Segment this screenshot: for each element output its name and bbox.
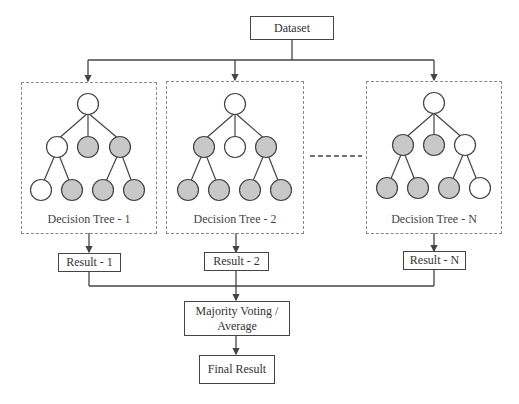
result-2-label: Result - 2 xyxy=(213,254,260,269)
tree-n-label: Decision Tree - N xyxy=(367,212,501,227)
result-2-box: Result - 2 xyxy=(204,252,269,271)
tree-2-panel: Decision Tree - 2 xyxy=(166,81,304,234)
result-n-label: Result - N xyxy=(410,253,459,268)
aggregator-box: Majority Voting / Average xyxy=(184,301,290,336)
final-result-label: Final Result xyxy=(208,362,266,377)
result-n-box: Result - N xyxy=(403,251,466,270)
dataset-label: Dataset xyxy=(274,21,310,36)
tree-2-label: Decision Tree - 2 xyxy=(167,212,303,227)
result-1-box: Result - 1 xyxy=(58,253,121,272)
dataset-box: Dataset xyxy=(250,16,334,40)
tree-1-panel: Decision Tree - 1 xyxy=(21,82,157,234)
aggregator-label: Majority Voting / Average xyxy=(193,304,281,334)
tree-1-label: Decision Tree - 1 xyxy=(22,212,156,227)
final-result-box: Final Result xyxy=(199,355,275,384)
tree-n-panel: Decision Tree - N xyxy=(366,81,502,234)
result-1-label: Result - 1 xyxy=(66,255,113,270)
